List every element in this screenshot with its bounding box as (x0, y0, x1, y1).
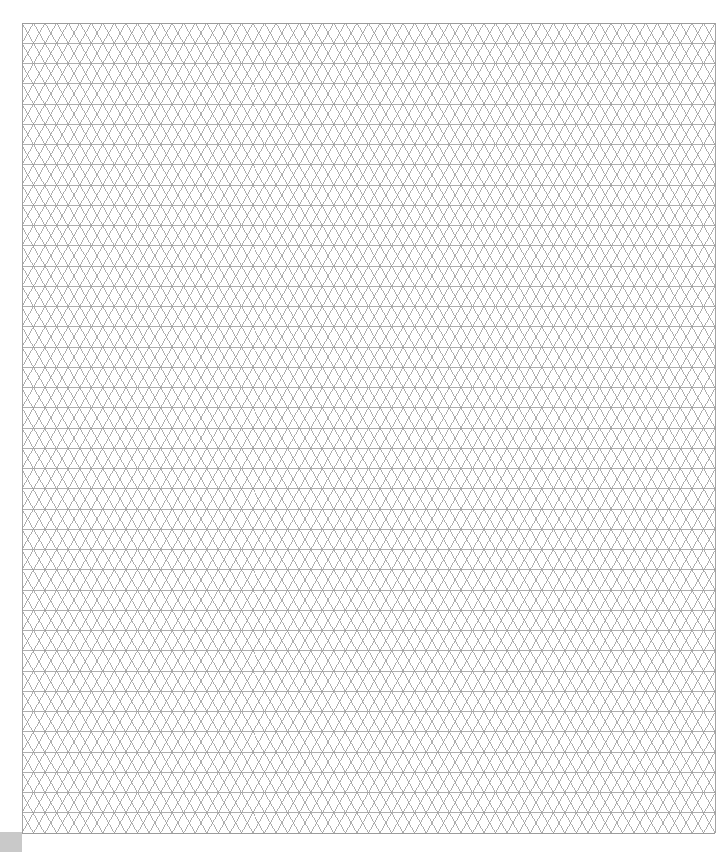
grid-right-diagonals (22, 23, 715, 833)
bottom-left-corner-marker (0, 832, 22, 852)
triangular-grid (0, 0, 727, 852)
page-canvas (0, 0, 727, 852)
